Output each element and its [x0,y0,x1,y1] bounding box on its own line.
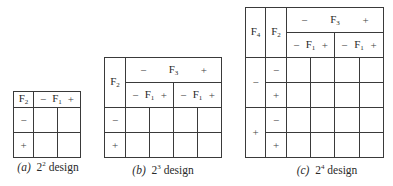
cell [58,133,81,158]
row-factor-label: F2 [14,92,34,108]
cell [58,108,81,133]
row-level: + [14,133,34,158]
cell [360,58,384,83]
cell [198,133,222,158]
cell [287,83,311,108]
cell [287,108,311,133]
caption-2-3: (b) 23 design [118,163,208,176]
outer-row-factor-label: F4 [246,8,266,58]
outer-col-factor-header: −F3+ [126,58,222,83]
cell [311,108,335,133]
cell [150,108,174,133]
cell [311,58,335,83]
cell [150,133,174,158]
cell [34,133,58,158]
cell [335,108,360,133]
outer-col-factor-header: −F3+ [287,8,384,33]
cell [287,133,311,158]
inner-col-factor-header: −F1+ [174,83,222,108]
cell [360,83,384,108]
design-table-2-3: F2 −F3+ −F1+ −F1+ − + [104,57,222,158]
col-factor-header: −F1+ [34,92,81,108]
inner-row-level: − [266,58,287,83]
cell [360,108,384,133]
inner-col-factor-header: −F1+ [287,33,335,58]
design-table-2-4: F4 F2 −F3+ −F1+ −F1+ − − + + − + [245,7,384,158]
inner-row-level: + [266,83,287,108]
outer-row-level: − [246,58,266,108]
cell [360,133,384,158]
row-factor-label: F2 [105,58,126,108]
inner-col-factor-header: −F1+ [126,83,174,108]
cell [126,133,150,158]
cell [174,108,198,133]
inner-col-factor-header: −F1+ [335,33,384,58]
caption-2-2: (a) 22 design [10,160,86,173]
row-level: + [105,133,126,158]
outer-row-level: + [246,108,266,158]
inner-row-level: − [266,108,287,133]
cell [335,133,360,158]
cell [198,108,222,133]
cell [34,108,58,133]
inner-row-factor-label: F2 [266,8,287,58]
cell [126,108,150,133]
cell [287,58,311,83]
design-table-2-2: F2 −F1+ − + [13,91,81,158]
cell [311,133,335,158]
inner-row-level: + [266,133,287,158]
cell [174,133,198,158]
cell [335,58,360,83]
cell [335,83,360,108]
cell [311,83,335,108]
row-level: − [14,108,34,133]
caption-2-4: (c) 24 design [282,163,372,176]
row-level: − [105,108,126,133]
